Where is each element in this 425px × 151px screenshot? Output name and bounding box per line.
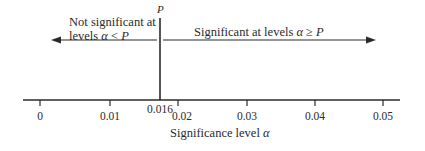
tick-label-0.04: 0.04 (305, 111, 325, 123)
tick-label-0.05: 0.05 (373, 111, 393, 123)
tick-label-0.01: 0.01 (100, 111, 120, 123)
alpha-symbol: α (263, 126, 270, 140)
left-region-label-line2: levels α < P (69, 30, 129, 43)
right-arrowhead-icon (366, 37, 376, 44)
axis-title: Significance level α (170, 127, 270, 140)
axis-title-text: Significance level (170, 126, 263, 140)
p-symbol: P (121, 29, 129, 43)
left-region-label-line1: Not significant at (69, 16, 156, 29)
p-symbol: P (316, 25, 324, 39)
p-value-axis-label: 0.016 (147, 104, 173, 116)
less-than-symbol: < (108, 29, 121, 43)
tick-label-0: 0 (37, 111, 43, 123)
right-region-text: Significant at levels (194, 25, 296, 39)
greater-equal-symbol: ≥ (303, 25, 316, 39)
left-region-levels-text: levels (69, 29, 101, 43)
left-arrowhead-icon (51, 37, 61, 44)
right-region-label: Significant at levels α ≥ P (194, 26, 324, 39)
significance-number-line-diagram: P Not significant at levels α < P Signif… (0, 0, 425, 151)
p-marker-label: P (157, 4, 164, 15)
tick-label-0.03: 0.03 (237, 111, 257, 123)
tick-label-0.02: 0.02 (172, 111, 192, 123)
